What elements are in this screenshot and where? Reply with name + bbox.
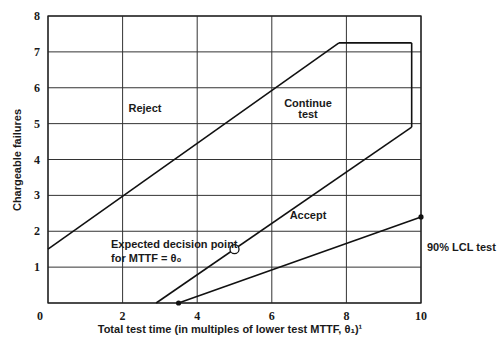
label-decision-point: Expected decision point: [111, 238, 238, 250]
y-tick-label: 1: [34, 260, 40, 274]
y-tick-label: 2: [34, 224, 40, 238]
x-tick-label: 0: [37, 309, 43, 323]
label-accept: Accept: [290, 209, 327, 221]
y-axis-ticks: 12345678: [34, 9, 40, 274]
y-tick-label: 4: [34, 153, 40, 167]
series-line: [156, 127, 412, 303]
x-tick-label: 8: [343, 309, 349, 323]
y-tick-label: 7: [34, 45, 40, 59]
series-line: [179, 217, 421, 303]
y-tick-label: 3: [34, 188, 40, 202]
x-axis-label: Total test time (in multiples of lower t…: [98, 323, 363, 335]
x-tick-label: 10: [415, 309, 427, 323]
sequential-test-chart: 12345678 0246810 Reject Continue test Ac…: [0, 0, 499, 346]
x-tick-label: 2: [120, 309, 126, 323]
lcl-point-marker: [418, 214, 423, 219]
x-tick-label: 4: [194, 309, 200, 323]
label-continue-test: test: [298, 108, 318, 120]
label-reject: Reject: [128, 102, 161, 114]
y-axis-label: Chargeable failures: [11, 109, 23, 211]
label-decision-mttf: for MTTF = θ₀: [111, 252, 182, 264]
y-tick-label: 5: [34, 117, 40, 131]
series-lines: [48, 43, 421, 303]
lcl-point-marker: [176, 300, 181, 305]
y-tick-label: 6: [34, 81, 40, 95]
x-tick-label: 6: [269, 309, 275, 323]
label-lcl-test: 90% LCL test: [427, 241, 496, 253]
y-tick-label: 8: [34, 9, 40, 23]
x-axis-ticks: 0246810: [37, 309, 427, 323]
